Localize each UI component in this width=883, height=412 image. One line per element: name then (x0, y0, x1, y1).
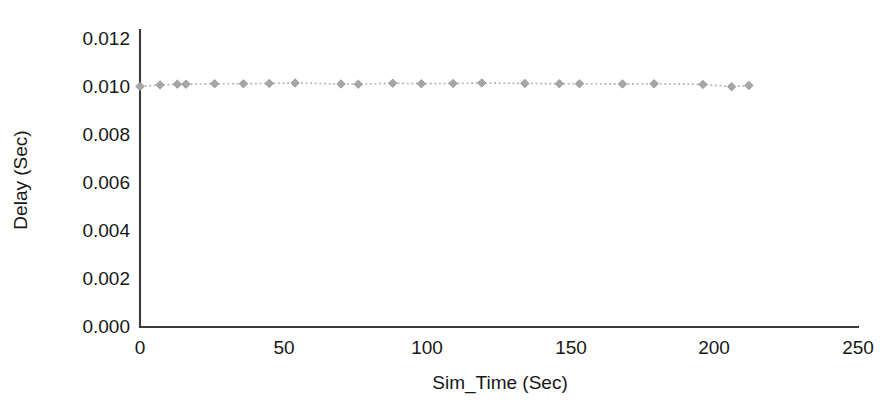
data-point (417, 80, 425, 88)
data-point (727, 82, 735, 90)
x-tick-label: 150 (555, 337, 587, 358)
data-point (173, 80, 181, 88)
y-tick-label: 0.008 (82, 124, 130, 145)
data-point (555, 80, 563, 88)
data-point (478, 79, 486, 87)
data-point (136, 82, 144, 90)
y-tick-label: 0.004 (82, 220, 130, 241)
y-axis-title: Delay (Sec) (10, 130, 31, 229)
data-point (745, 81, 753, 89)
data-point (618, 80, 626, 88)
y-tick-label: 0.012 (82, 28, 130, 49)
x-tick-label: 100 (411, 337, 443, 358)
data-point (389, 79, 397, 87)
data-point (337, 80, 345, 88)
data-point (239, 80, 247, 88)
series-delay (136, 79, 753, 91)
data-point (291, 79, 299, 87)
data-point (650, 80, 658, 88)
y-tick-label: 0.010 (82, 76, 130, 97)
delay-vs-simtime-chart: 0.012 0.010 0.008 0.006 0.004 0.002 0.00… (0, 0, 883, 412)
data-point (156, 81, 164, 89)
x-tick-label: 50 (273, 337, 294, 358)
data-point (575, 80, 583, 88)
data-point (354, 80, 362, 88)
series-markers (136, 79, 753, 91)
data-point (265, 79, 273, 87)
x-axis-title: Sim_Time (Sec) (432, 372, 567, 394)
y-tick-label: 0.000 (82, 316, 130, 337)
x-tick-label: 200 (698, 337, 730, 358)
y-tick-label: 0.002 (82, 268, 130, 289)
data-point (210, 80, 218, 88)
data-point (449, 79, 457, 87)
data-point (182, 80, 190, 88)
x-tick-label: 250 (842, 337, 874, 358)
data-point (521, 79, 529, 87)
y-tick-label: 0.006 (82, 172, 130, 193)
x-tick-label: 0 (135, 337, 146, 358)
data-point (699, 80, 707, 88)
chart-figure: 0.012 0.010 0.008 0.006 0.004 0.002 0.00… (0, 0, 883, 412)
